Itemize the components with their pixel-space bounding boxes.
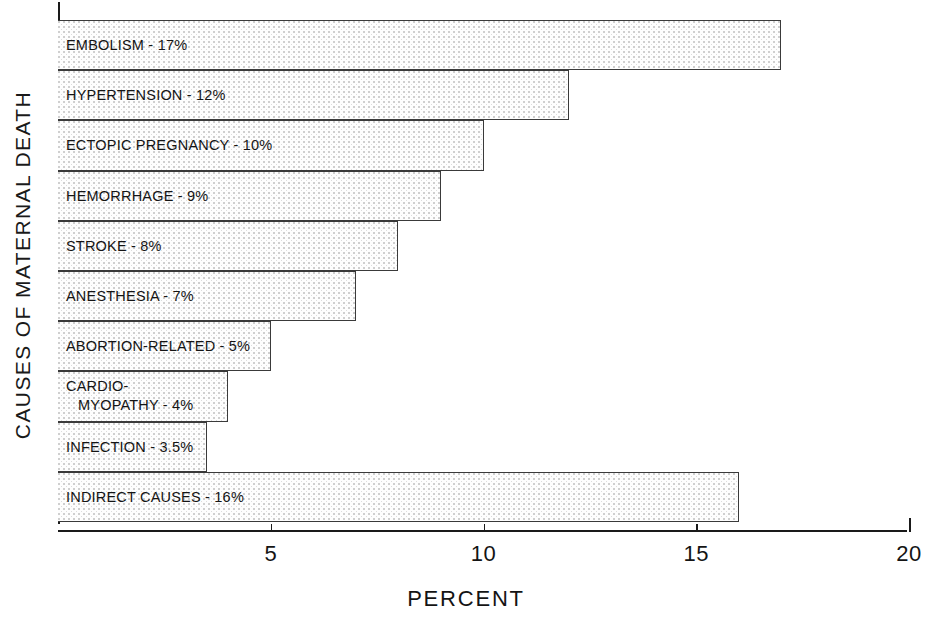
bar-label: HEMORRHAGE - 9% [66,186,208,205]
x-axis-line [58,530,907,532]
x-tick-label: 5 [264,541,277,567]
bar-row: INFECTION - 3.5% [58,422,908,472]
bar-label: INDIRECT CAUSES - 16% [66,488,244,507]
bar-chart: CAUSES OF MATERNAL DEATH EMBOLISM - 17%H… [0,0,936,630]
x-tick [696,524,698,532]
x-tick-label: 20 [896,541,921,567]
bar-label: CARDIO-MYOPATHY - 4% [66,378,193,416]
bar-row: CARDIO-MYOPATHY - 4% [58,371,908,421]
plot-area: EMBOLISM - 17%HYPERTENSION - 12%ECTOPIC … [58,20,908,522]
x-tick [484,524,486,532]
x-tick-label: 15 [684,541,709,567]
y-axis-title-text: CAUSES OF MATERNAL DEATH [11,91,35,439]
bar-label: EMBOLISM - 17% [66,36,187,55]
y-axis-title: CAUSES OF MATERNAL DEATH [0,0,46,530]
bar-label: HYPERTENSION - 12% [66,86,226,105]
bar-row: HEMORRHAGE - 9% [58,171,908,221]
bar-row: ABORTION-RELATED - 5% [58,321,908,371]
bar-label-line-1: CARDIO- [66,379,129,395]
bar-label: STROKE - 8% [66,237,162,256]
x-tick [909,518,911,532]
bar-row: ECTOPIC PREGNANCY - 10% [58,120,908,170]
bar-label: INFECTION - 3.5% [66,437,193,456]
bar-label: ECTOPIC PREGNANCY - 10% [66,136,272,155]
x-tick [271,524,273,532]
bar-label: ANESTHESIA - 7% [66,287,194,306]
bar-row: ANESTHESIA - 7% [58,271,908,321]
bar-label-line-2: MYOPATHY - 4% [66,396,193,415]
bar-row: STROKE - 8% [58,221,908,271]
x-axis-title-text: PERCENT [407,586,525,612]
bar-row: EMBOLISM - 17% [58,20,908,70]
bar-row: INDIRECT CAUSES - 16% [58,472,908,522]
x-axis-title: PERCENT [0,586,936,612]
bar-row: HYPERTENSION - 12% [58,70,908,120]
x-tick-label: 10 [471,541,496,567]
bar-label: ABORTION-RELATED - 5% [66,337,250,356]
